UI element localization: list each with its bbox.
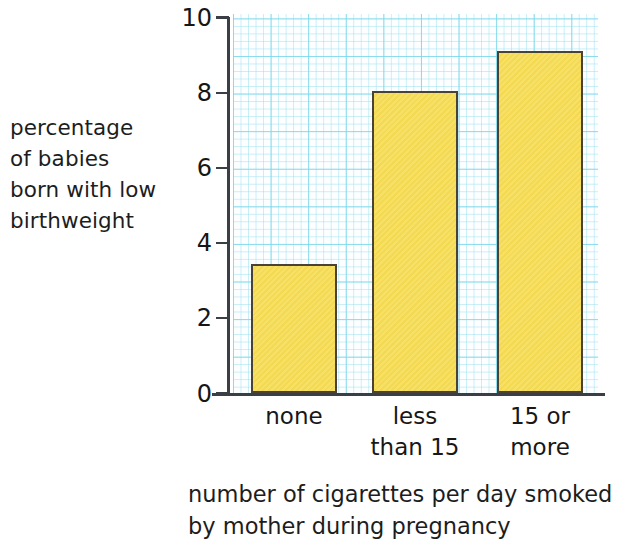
y-axis-tick (216, 392, 229, 394)
bar-chart-figure: percentage of babies born with low birth… (0, 0, 643, 548)
y-axis-tick (216, 16, 229, 18)
plot-area (233, 14, 598, 394)
bar (372, 91, 458, 394)
y-axis-tick-label: 6 (178, 156, 212, 180)
bar (497, 51, 583, 393)
y-axis-tick-label: 0 (178, 382, 212, 406)
x-axis-caption: number of cigarettes per day smoked by m… (188, 478, 643, 542)
y-axis-tick (216, 317, 229, 319)
y-axis-tick-label: 2 (178, 306, 212, 330)
bar (251, 264, 337, 394)
y-axis-tick (216, 167, 229, 169)
y-axis-tick-label: 8 (178, 81, 212, 105)
y-axis-tick-label: 10 (178, 6, 212, 30)
x-axis-category-label: 15 or more (460, 401, 620, 463)
x-axis-line (212, 393, 605, 396)
y-axis-line (227, 17, 230, 396)
y-axis-title: percentage of babies born with low birth… (10, 112, 200, 236)
y-axis-tick-label: 4 (178, 231, 212, 255)
y-axis-tick (216, 242, 229, 244)
y-axis-tick (216, 92, 229, 94)
